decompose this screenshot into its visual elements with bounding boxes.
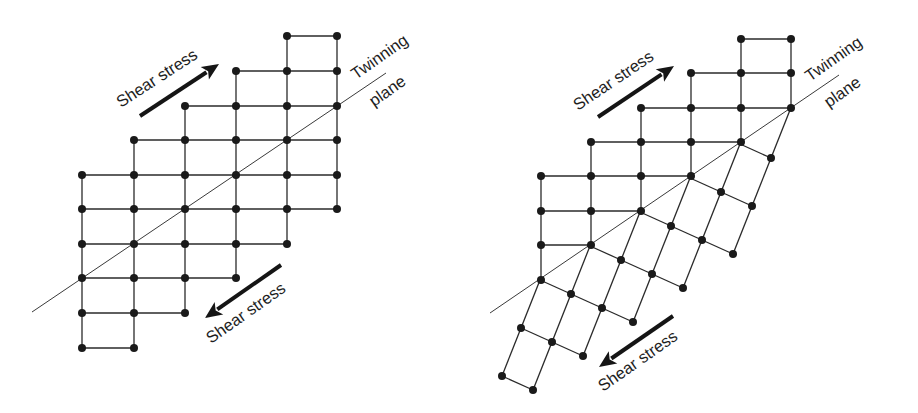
atom	[498, 372, 506, 380]
twin-bond	[721, 144, 740, 192]
twin-bond	[771, 110, 790, 158]
atom	[517, 324, 525, 332]
atom	[537, 276, 545, 284]
shear-stress-label-top: Shear stress	[113, 45, 200, 111]
twin-bond	[602, 308, 633, 322]
twin-bond	[721, 192, 752, 206]
twin-bond	[502, 376, 533, 390]
twin-bond	[583, 308, 602, 356]
atom	[78, 309, 86, 317]
atom	[283, 136, 291, 144]
atom	[130, 240, 138, 248]
atom	[181, 205, 189, 213]
panel-after-twinning: Shear stress Shear stress Twinning plane	[490, 32, 865, 394]
atom	[78, 240, 86, 248]
atom	[737, 104, 745, 112]
twinning-label: Twinning	[347, 30, 411, 82]
atom	[548, 338, 556, 346]
atom	[698, 236, 706, 244]
atom	[333, 171, 341, 179]
atom	[232, 102, 240, 110]
atom	[537, 241, 545, 249]
twin-bond	[571, 294, 602, 308]
twin-bond	[552, 342, 583, 356]
atom	[737, 35, 745, 43]
atom	[130, 136, 138, 144]
atom	[333, 67, 341, 75]
atom	[587, 207, 595, 215]
shear-arrow-bottom-head	[205, 302, 223, 318]
twin-bond	[621, 212, 640, 260]
atom	[232, 205, 240, 213]
atom	[130, 274, 138, 282]
twin-bond	[621, 260, 652, 274]
atom	[587, 241, 595, 249]
atom	[283, 205, 291, 213]
atom	[181, 102, 189, 110]
plane-label: plane	[820, 73, 863, 111]
twin-bond	[640, 212, 671, 226]
atom	[767, 154, 775, 162]
twin-bond	[702, 240, 733, 254]
twin-bond	[733, 206, 752, 254]
atom	[637, 172, 645, 180]
twinning-diagram: Shear stress Shear stress Twinning plane…	[0, 0, 918, 413]
twin-bond	[702, 192, 721, 240]
atom	[679, 284, 687, 292]
atom	[232, 67, 240, 75]
atom	[130, 344, 138, 352]
lattice-bonds	[502, 39, 791, 390]
twin-bond	[602, 260, 621, 308]
plane-label: plane	[365, 72, 408, 110]
twin-bond	[740, 144, 771, 158]
atom	[333, 102, 341, 110]
twin-bond	[671, 226, 702, 240]
atom	[617, 256, 625, 264]
panel-before-twinning: Shear stress Shear stress Twinning plane	[32, 30, 411, 352]
atom	[78, 274, 86, 282]
atom	[181, 309, 189, 317]
atom	[748, 202, 756, 210]
twin-bond	[752, 158, 771, 206]
atom	[78, 205, 86, 213]
atom	[687, 69, 695, 77]
twin-bond	[652, 274, 683, 288]
atom	[232, 240, 240, 248]
atom	[587, 138, 595, 146]
atom	[637, 207, 645, 215]
atom	[283, 67, 291, 75]
shear-stress-label-top: Shear stress	[570, 47, 657, 114]
atom	[787, 69, 795, 77]
atom	[717, 188, 725, 196]
atom	[587, 172, 595, 180]
atom	[181, 136, 189, 144]
atom	[567, 290, 575, 298]
shear-arrow-top-head	[656, 66, 674, 82]
atom	[579, 352, 587, 360]
atom	[729, 250, 737, 258]
atom	[598, 304, 606, 312]
atom	[181, 171, 189, 179]
atom	[181, 240, 189, 248]
atom	[283, 240, 291, 248]
atom	[648, 270, 656, 278]
atom	[181, 274, 189, 282]
atom	[130, 171, 138, 179]
atom	[687, 104, 695, 112]
atom	[232, 136, 240, 144]
atom	[78, 344, 86, 352]
atom	[130, 309, 138, 317]
atom	[787, 35, 795, 43]
atom	[283, 32, 291, 40]
twin-bond	[690, 178, 721, 192]
atom	[333, 205, 341, 213]
twin-bond	[521, 280, 540, 328]
atom	[687, 138, 695, 146]
atom	[537, 207, 545, 215]
twin-bond	[540, 280, 571, 294]
atom	[687, 172, 695, 180]
atom	[637, 138, 645, 146]
twin-bond	[633, 274, 652, 322]
twin-bond	[590, 246, 621, 260]
atom	[537, 172, 545, 180]
